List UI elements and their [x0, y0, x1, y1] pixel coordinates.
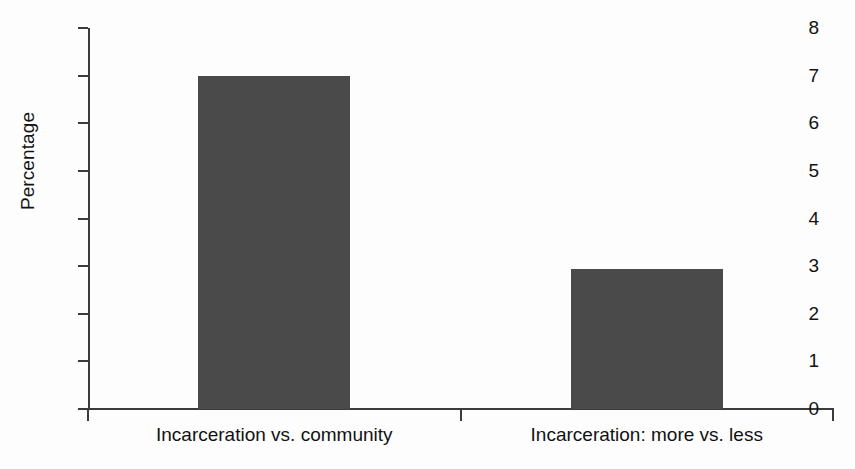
y-axis-tick-label: 6 [779, 113, 819, 132]
y-axis-title: Percentage [17, 81, 39, 241]
y-axis-tick-label: 4 [779, 209, 819, 228]
plot-area: 012345678 [88, 28, 833, 409]
y-axis-tick-label: 1 [779, 351, 819, 370]
y-axis-tick-label: 2 [779, 304, 819, 323]
y-axis-tick [78, 360, 88, 362]
y-axis-tick-label: 0 [779, 399, 819, 418]
bar [198, 76, 350, 409]
x-axis-tick [87, 410, 89, 421]
y-axis-tick-label: 5 [779, 161, 819, 180]
y-axis-tick-label: 7 [779, 66, 819, 85]
y-axis-tick-label: 3 [779, 256, 819, 275]
y-axis-tick [78, 313, 88, 315]
y-axis-tick [78, 27, 88, 29]
bar-chart: Percentage 012345678 Incarceration vs. c… [0, 0, 855, 469]
y-axis-tick [78, 170, 88, 172]
y-axis-tick [78, 218, 88, 220]
y-axis-tick [78, 122, 88, 124]
x-axis-tick [832, 410, 834, 421]
bar [571, 269, 723, 409]
x-axis-category-label: Incarceration: more vs. less [531, 424, 763, 446]
x-axis-category-label: Incarceration vs. community [156, 424, 393, 446]
y-axis-tick-label: 8 [779, 18, 819, 37]
x-axis-tick [460, 410, 462, 421]
y-axis-tick [78, 75, 88, 77]
y-axis-tick [78, 265, 88, 267]
